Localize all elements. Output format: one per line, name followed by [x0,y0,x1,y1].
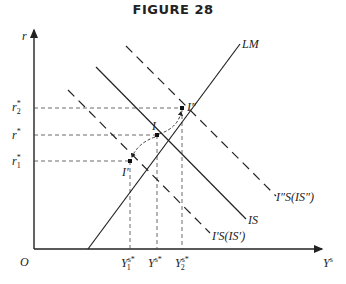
y-tick-r-star: r* [12,128,21,141]
point-i-double-prime [180,106,184,110]
origin-label: O [20,256,29,268]
figure-28-is-lm-diagram: FIGURE 28 [0,0,346,284]
y-tick-r1-star: r*1 [12,154,21,170]
x-tick-y-star: Ys* [148,256,162,269]
x-axis-label: Ys [323,256,333,269]
y-tick-r2-star: r*2 [12,100,21,116]
x-tick-y1-star: Ys*1 [121,256,131,272]
lm-curve [88,44,240,249]
is-prime-label: I′S(IS′) [212,230,245,242]
is-label: IS [248,214,258,226]
arrow-i-to-i-prime [132,137,155,157]
x-tick-y2-star: Ys*2 [175,256,185,272]
point-i-double-prime-label: I″ [187,101,196,113]
point-i-prime-label: I′ [122,166,129,178]
lm-label: LM [242,38,259,50]
is-double-prime-label: I″S(IS″) [276,191,314,203]
point-i [155,133,159,137]
guide-lines [34,108,182,249]
diagram-canvas [0,0,346,284]
point-i-prime [128,159,132,163]
point-i-label: I [152,120,156,132]
arrow-i-to-i-double-prime [159,112,181,134]
y-axis-label: r [22,30,27,42]
